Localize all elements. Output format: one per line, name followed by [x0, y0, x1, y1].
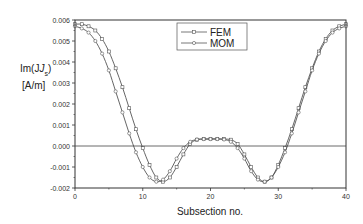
- fem-data-marker: [107, 50, 110, 53]
- y-tick-label: 0.000: [52, 143, 70, 150]
- fem-data-marker: [87, 25, 90, 28]
- mom-data-marker: [87, 31, 90, 34]
- mom-data-marker: [189, 140, 192, 143]
- line-chart: 0.0060.0050.0040.0030.0020.0010.000-0.00…: [0, 0, 363, 224]
- mom-data-marker: [128, 132, 131, 135]
- mom-data-marker: [175, 157, 178, 160]
- y-axis-label-unit: [A/m]: [22, 80, 46, 91]
- fem-data-marker: [243, 153, 246, 156]
- x-tick-label: 0: [73, 193, 77, 200]
- mom-data-marker: [107, 69, 110, 72]
- y-tick-label: 0.005: [52, 38, 70, 45]
- legend-fem-marker: [193, 31, 196, 34]
- fem-data-marker: [250, 166, 253, 169]
- mom-data-marker: [216, 137, 219, 140]
- mom-data-marker: [290, 132, 293, 135]
- mom-data-marker: [338, 27, 341, 30]
- mom-data-marker: [283, 151, 286, 154]
- mom-data-marker: [80, 27, 83, 30]
- mom-data-marker: [277, 165, 280, 168]
- fem-data-marker: [236, 142, 239, 145]
- y-tick-label: -0.001: [50, 164, 70, 171]
- mom-data-marker: [263, 180, 266, 183]
- mom-data-marker: [114, 90, 117, 93]
- mom-data-marker: [311, 69, 314, 72]
- fem-data-marker: [114, 67, 117, 70]
- mom-data-marker: [236, 147, 239, 150]
- mom-data-marker: [229, 140, 232, 143]
- x-axis-label: Subsection no.: [177, 206, 243, 217]
- mom-data-marker: [182, 147, 185, 150]
- mom-data-marker: [121, 111, 124, 114]
- fem-data-marker: [134, 128, 137, 131]
- fem-data-marker: [182, 153, 185, 156]
- fem-data-marker: [128, 107, 131, 110]
- y-axis-ticks: 0.0060.0050.0040.0030.0020.0010.000-0.00…: [50, 17, 75, 192]
- y-tick-label: 0.003: [52, 80, 70, 87]
- y-tick-label: 0.006: [52, 17, 70, 24]
- fem-data-marker: [141, 147, 144, 150]
- mom-data-marker: [148, 176, 151, 179]
- y-tick-label: 0.004: [52, 59, 70, 66]
- mom-data-marker: [297, 111, 300, 114]
- mom-data-marker: [195, 138, 198, 141]
- y-tick-label: 0.002: [52, 101, 70, 108]
- fem-data-marker: [148, 163, 151, 166]
- legend-mom-marker: [192, 41, 195, 44]
- x-tick-label: 20: [207, 193, 215, 200]
- mom-data-marker: [155, 180, 158, 183]
- fem-data-marker: [101, 37, 104, 40]
- legend: FEM MOM: [177, 23, 247, 50]
- mom-data-marker: [270, 176, 273, 179]
- y-tick-label: 0.001: [52, 122, 70, 129]
- mom-data-marker: [202, 137, 205, 140]
- legend-fem-label: FEM: [210, 27, 231, 38]
- mom-data-marker: [324, 39, 327, 42]
- mom-data-marker: [331, 31, 334, 34]
- mom-data-marker: [101, 52, 104, 55]
- y-axis-label: Im(JJs): [20, 63, 51, 77]
- fem-data-marker: [94, 29, 97, 32]
- x-axis-ticks: 010203040: [73, 188, 350, 200]
- mom-data-marker: [250, 170, 253, 173]
- fem-data-marker: [155, 176, 158, 179]
- x-tick-label: 40: [342, 193, 350, 200]
- mom-data-marker: [317, 52, 320, 55]
- mom-data-marker: [168, 170, 171, 173]
- y-tick-label: -0.002: [50, 185, 70, 192]
- legend-mom-label: MOM: [210, 38, 234, 49]
- mom-data-marker: [222, 138, 225, 141]
- mom-data-marker: [209, 137, 212, 140]
- mom-data-marker: [141, 165, 144, 168]
- fem-data-marker: [80, 23, 83, 26]
- x-tick-label: 10: [139, 193, 147, 200]
- mom-data-marker: [94, 39, 97, 42]
- fem-data-marker: [168, 176, 171, 179]
- mom-data-marker: [134, 151, 137, 154]
- mom-data-marker: [161, 178, 164, 181]
- mom-data-marker: [243, 157, 246, 160]
- fem-data-marker: [121, 86, 124, 89]
- mom-data-marker: [256, 178, 259, 181]
- mom-data-marker: [304, 90, 307, 93]
- fem-data-marker: [175, 166, 178, 169]
- x-tick-label: 30: [274, 193, 282, 200]
